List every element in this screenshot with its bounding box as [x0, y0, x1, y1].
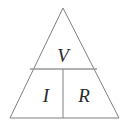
triangle-figure: V I R [0, 0, 126, 125]
cell-label-resistance: R [77, 85, 90, 106]
ohms-law-triangle-diagram: V I R [0, 0, 126, 125]
